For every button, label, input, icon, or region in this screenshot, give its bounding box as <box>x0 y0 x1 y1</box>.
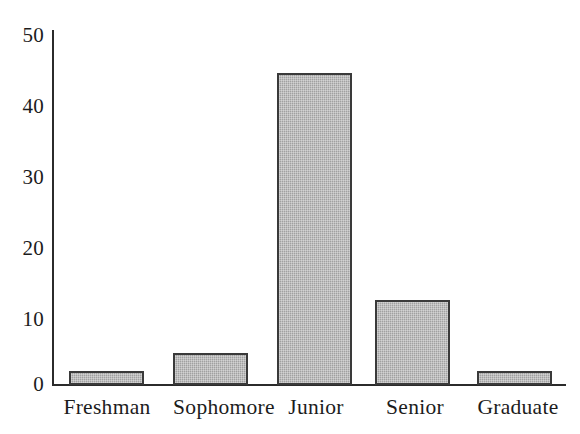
bar-chart: 50 40 30 20 10 0 Freshman Sophomore Juni… <box>0 0 580 434</box>
x-axis-category-labels: Freshman Sophomore Junior Senior Graduat… <box>0 392 580 426</box>
bar-senior <box>375 300 450 385</box>
bar-freshman <box>69 371 144 385</box>
x-label-graduate: Graduate <box>452 392 580 422</box>
bar-junior <box>277 73 352 385</box>
bar-sophomore <box>173 353 248 385</box>
bars-layer <box>0 0 580 434</box>
bar-graduate <box>477 371 552 385</box>
